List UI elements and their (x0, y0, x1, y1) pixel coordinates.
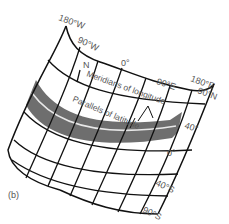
label-90s: 90°S (141, 205, 163, 222)
label-40n: 40° (183, 120, 199, 134)
label-0-lat: 0° (167, 148, 176, 158)
map-projection-diagram: 180°W 90°W 0° 90°E 180°E 90°N 40° 0° 40°… (0, 0, 229, 224)
label-40s: 40°S (154, 178, 176, 195)
label-90e: 90°E (155, 76, 177, 92)
label-180w: 180°W (57, 12, 86, 31)
annotation-meridians: Meridians of longitude (85, 68, 167, 106)
label-0-lon: 0° (121, 58, 130, 68)
panel-label: (b) (8, 190, 19, 200)
north-ticks (77, 70, 80, 82)
